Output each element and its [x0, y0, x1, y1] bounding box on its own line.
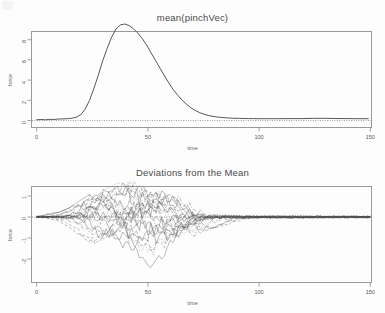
- mean-pinch-force-curve: [37, 24, 369, 120]
- deviations-ytick-1: 1: [21, 196, 27, 210]
- mean-yaxis-label: force: [7, 65, 13, 95]
- mean-xaxis-label: time: [0, 145, 385, 151]
- mean-ytick-4: 4: [21, 81, 27, 95]
- deviations-xaxis-label: time: [0, 300, 385, 306]
- mean-panel: mean(pinchVec) 0 2 4 6: [0, 0, 385, 156]
- deviations-xtick-0: 0: [35, 289, 38, 295]
- deviation-curve-group: [37, 182, 371, 268]
- deviation-curve: [37, 195, 371, 251]
- figure-canvas: mean(pinchVec) 0 2 4 6: [0, 0, 385, 313]
- deviation-curve: [37, 186, 371, 236]
- mean-axis-ticks: [28, 40, 371, 132]
- deviations-ytick-neg1: -1: [21, 238, 27, 252]
- deviations-xtick-50: 50: [145, 289, 151, 295]
- deviation-curve: [37, 182, 371, 230]
- mean-xtick-100: 100: [255, 134, 264, 140]
- deviations-plot-area: [0, 155, 385, 313]
- mean-ytick-8: 8: [21, 40, 27, 54]
- deviation-curve: [37, 201, 371, 250]
- mean-xtick-50: 50: [145, 134, 151, 140]
- deviations-yaxis-label: force: [7, 220, 13, 250]
- mean-xtick-0: 0: [35, 134, 38, 140]
- mean-plot-area: [0, 0, 385, 156]
- deviations-axis-ticks: [28, 196, 371, 287]
- deviations-panel: Deviations from the Mean 1 0 -1 -2 0 50: [0, 155, 385, 313]
- deviations-ytick-0: 0: [21, 217, 27, 231]
- deviations-ytick-neg2: -2: [21, 259, 27, 273]
- mean-ytick-0: 0: [21, 121, 27, 135]
- mean-ytick-2: 2: [21, 101, 27, 115]
- deviations-xtick-150: 150: [366, 289, 375, 295]
- mean-xtick-150: 150: [366, 134, 375, 140]
- deviation-curve: [37, 192, 371, 235]
- deviations-xtick-100: 100: [255, 289, 264, 295]
- mean-ytick-6: 6: [21, 60, 27, 74]
